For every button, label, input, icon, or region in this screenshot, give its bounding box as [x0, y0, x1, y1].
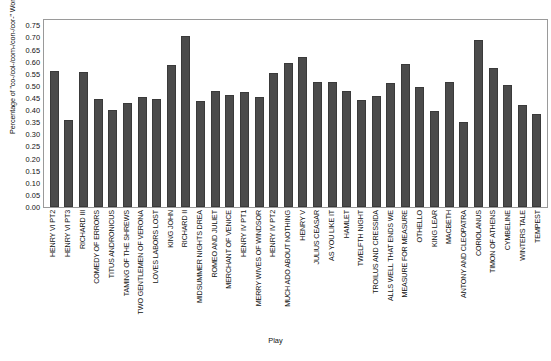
category-slot: TAMING OF THE SHREWS	[119, 210, 134, 328]
x-tick-label: TEMPEST	[534, 210, 542, 243]
bar[interactable]	[167, 65, 176, 207]
bar-slot	[179, 20, 194, 207]
x-tick-label: MERRY WIVES OF WINDSOR	[255, 210, 263, 306]
bar-slot	[120, 20, 135, 207]
category-slot: TIMON OF ATHENS	[486, 210, 501, 328]
y-tick-label: 0.75	[26, 22, 40, 30]
x-tick-label: RICHARD III	[79, 210, 87, 249]
x-tick-label: MIDSUMMER NIGHTS DREA	[196, 210, 204, 303]
bar[interactable]	[196, 101, 205, 207]
x-tick-label: TITUS ANDRONICUS	[108, 210, 116, 278]
bar-slot	[223, 20, 238, 207]
category-slot: JULIUS CEASAR	[310, 210, 325, 328]
bar[interactable]	[79, 72, 88, 207]
category-slot: HAMLET	[339, 210, 354, 328]
bar[interactable]	[386, 83, 395, 207]
x-tick-label: MACBETH	[445, 210, 453, 244]
bar-series	[44, 20, 547, 207]
category-slot: HENRY VI PT3	[61, 210, 76, 328]
bar-slot	[208, 20, 223, 207]
bar[interactable]	[50, 71, 59, 207]
category-slot: MEASURE FOR MEASURE	[398, 210, 413, 328]
bar-slot	[149, 20, 164, 207]
bar-slot	[515, 20, 530, 207]
chart-figure: Percentage of "co-/col-/com-/con-/cor-" …	[0, 0, 551, 361]
bar[interactable]	[489, 68, 498, 207]
bar[interactable]	[342, 91, 351, 207]
y-tick-label: 0.20	[26, 156, 40, 164]
category-slot: COMEDY OF ERRORS	[90, 210, 105, 328]
bar[interactable]	[138, 97, 147, 207]
bar[interactable]	[181, 36, 190, 207]
category-slot: RICHARD III	[75, 210, 90, 328]
x-tick-label: HENRY VI PT2	[49, 210, 57, 257]
bar-slot	[76, 20, 91, 207]
x-tick-label: ALLS WELL THAT ENDS WE	[387, 210, 395, 301]
y-tick-label: 0.15	[26, 168, 40, 176]
x-tick-label: MEASURE FOR MEASURE	[401, 210, 409, 297]
bar[interactable]	[357, 100, 366, 207]
y-tick-label: 0.45	[26, 95, 40, 103]
x-tick-label: TWELFTH NIGHT	[357, 210, 365, 266]
bar-slot	[369, 20, 384, 207]
bar[interactable]	[532, 114, 541, 207]
bar[interactable]	[255, 97, 264, 207]
y-tick-label: 0.05	[26, 192, 40, 200]
bar[interactable]	[225, 95, 234, 207]
bar[interactable]	[284, 63, 293, 207]
bar[interactable]	[269, 73, 278, 207]
category-slot: HENRY IV PT1	[237, 210, 252, 328]
bar-slot	[237, 20, 252, 207]
bar-slot	[486, 20, 501, 207]
x-tick-label: RICHARD II	[181, 210, 189, 247]
bar[interactable]	[518, 105, 527, 207]
bar[interactable]	[240, 92, 249, 207]
bar[interactable]	[298, 57, 307, 207]
y-tick-label: 0.65	[26, 47, 40, 55]
category-slot: ROMEO AND JULIET	[207, 210, 222, 328]
category-slot: HENRY VI PT2	[46, 210, 61, 328]
bar-slot	[106, 20, 121, 207]
x-tick-label: TWO GENTLEMEN OF VERONA	[137, 210, 145, 314]
category-slot: RICHARD II	[178, 210, 193, 328]
bar[interactable]	[108, 110, 117, 207]
bar[interactable]	[211, 91, 220, 207]
category-slot: AS YOU LIKE IT	[325, 210, 340, 328]
bar[interactable]	[474, 40, 483, 207]
x-tick-label: KING JOHN	[167, 210, 175, 248]
category-slot: LOVES LABORS LOST	[149, 210, 164, 328]
bar-slot	[281, 20, 296, 207]
bar[interactable]	[445, 82, 454, 208]
x-tick-label: HAMLET	[343, 210, 351, 238]
x-tick-label: HENRY IV PT1	[240, 210, 248, 257]
bar[interactable]	[64, 120, 73, 207]
bar[interactable]	[503, 85, 512, 207]
bar-slot	[500, 20, 515, 207]
bar[interactable]	[328, 82, 337, 207]
bar-slot	[62, 20, 77, 207]
bar-slot	[457, 20, 472, 207]
x-tick-label: HENRY VI PT3	[64, 210, 72, 257]
category-slot: WINTERS TALE	[516, 210, 531, 328]
category-slot: MERRY WIVES OF WINDSOR	[251, 210, 266, 328]
bar[interactable]	[459, 122, 468, 207]
bar-slot	[47, 20, 62, 207]
bar[interactable]	[415, 87, 424, 207]
bar[interactable]	[372, 96, 381, 207]
bar[interactable]	[152, 99, 161, 207]
bar[interactable]	[430, 111, 439, 207]
category-slot: HENRY V	[295, 210, 310, 328]
x-tick-label: CYMBELINE	[504, 210, 512, 250]
bar-slot	[193, 20, 208, 207]
bar[interactable]	[123, 103, 132, 207]
bar[interactable]	[313, 82, 322, 207]
category-slot: TWELFTH NIGHT	[354, 210, 369, 328]
bar-slot	[164, 20, 179, 207]
x-tick-label: TROILUS AND CRESSIDA	[372, 210, 380, 294]
bar[interactable]	[94, 99, 103, 207]
bar[interactable]	[401, 64, 410, 207]
bar-slot	[530, 20, 545, 207]
category-slot: MERCHANT OF VENICE	[222, 210, 237, 328]
category-slot: TROILUS AND CRESSIDA	[369, 210, 384, 328]
y-tick-label: 0.60	[26, 59, 40, 67]
